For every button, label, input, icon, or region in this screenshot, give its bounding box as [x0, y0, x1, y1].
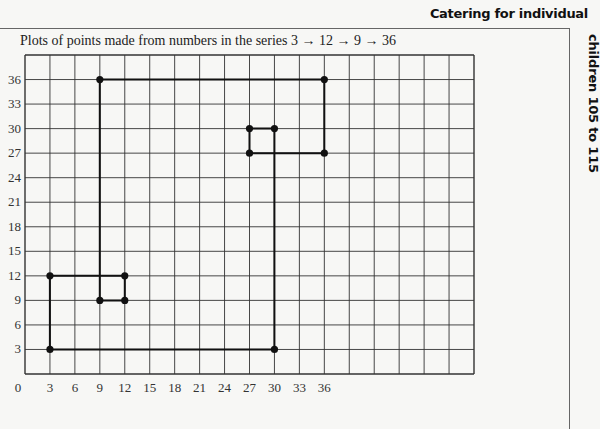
y-tick-label: 30: [8, 121, 21, 136]
x-tick-label: 24: [218, 380, 232, 395]
point-marker: [321, 150, 328, 157]
x-tick-label: 15: [143, 380, 156, 395]
point-marker: [321, 76, 328, 83]
y-tick-label: 36: [8, 72, 22, 87]
y-tick-label: 18: [8, 219, 21, 234]
point-marker: [121, 272, 128, 279]
point-marker: [271, 125, 278, 132]
point-marker: [46, 272, 53, 279]
y-tick-label: 33: [8, 96, 21, 111]
y-tick-label: 6: [15, 317, 22, 332]
x-tick-label: 12: [118, 380, 131, 395]
x-tick-label: 6: [72, 380, 79, 395]
data-markers: [46, 76, 328, 353]
x-tick-label: 33: [293, 380, 306, 395]
y-tick-label: 12: [8, 268, 21, 283]
x-tick-label: 21: [193, 380, 206, 395]
point-marker: [246, 125, 253, 132]
y-tick-label: 27: [8, 145, 22, 160]
axis-ticks: 0369121518212427303336369121518212427303…: [8, 72, 331, 395]
y-tick-label: 9: [15, 292, 22, 307]
point-marker: [46, 346, 53, 353]
x-tick-label: 27: [243, 380, 257, 395]
x-tick-label: 3: [47, 380, 54, 395]
grid: [25, 55, 474, 374]
point-marker: [246, 150, 253, 157]
x-tick-label: 30: [268, 380, 281, 395]
y-tick-label: 24: [8, 170, 22, 185]
point-marker: [96, 297, 103, 304]
point-marker: [271, 346, 278, 353]
y-tick-label: 15: [8, 243, 21, 258]
x-tick-label: 18: [168, 380, 181, 395]
data-path: [50, 80, 324, 350]
point-marker: [121, 297, 128, 304]
x-tick-label: 9: [97, 380, 104, 395]
point-marker: [96, 76, 103, 83]
y-tick-label: 21: [8, 194, 21, 209]
x-tick-label: 0: [15, 380, 22, 395]
x-tick-label: 36: [318, 380, 332, 395]
y-tick-label: 3: [15, 341, 22, 356]
